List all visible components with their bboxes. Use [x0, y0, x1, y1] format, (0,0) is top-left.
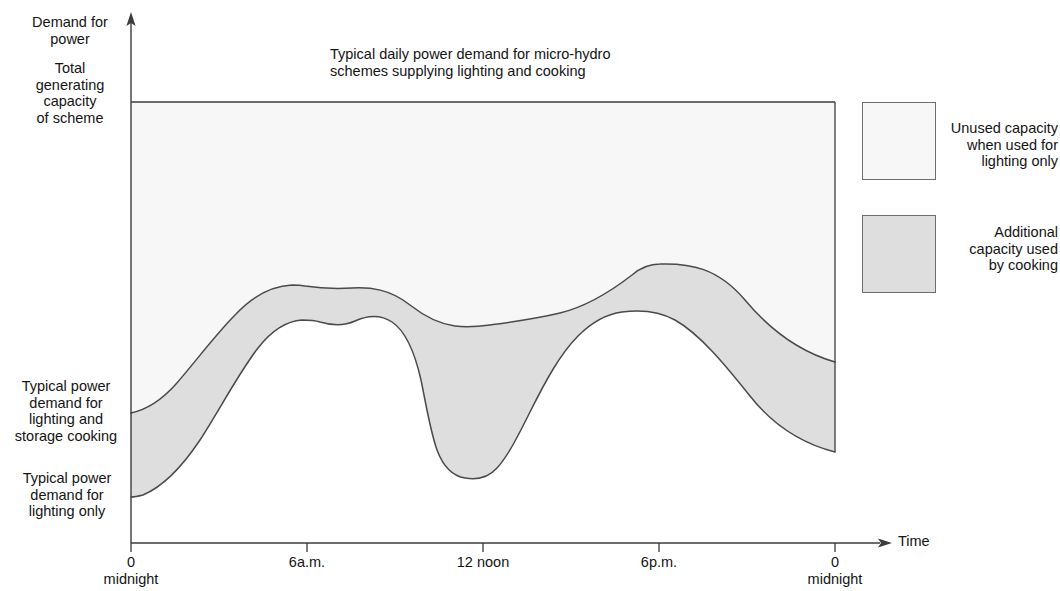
x-axis-ticks — [131, 543, 835, 552]
x-axis-arrowhead — [878, 538, 892, 547]
lighting-only-label: Typical power demand for lighting only — [6, 470, 128, 520]
x-axis-title: Time — [898, 533, 930, 550]
total-capacity-label: Total generating capacity of scheme — [12, 60, 128, 126]
y-axis-title: Demand for power — [12, 14, 128, 47]
x-tick-label-6am: 6a.m. — [242, 554, 372, 571]
x-tick-label-12noon: 12 noon — [418, 554, 548, 571]
lighting-and-storage-cooking-label: Typical power demand for lighting and st… — [4, 378, 128, 444]
x-tick-label-6pm: 6p.m. — [594, 554, 724, 571]
legend-swatch-cooking-capacity — [862, 215, 936, 293]
chart-title: Typical daily power demand for micro-hyd… — [330, 46, 730, 80]
x-tick-label-midnight-end: 0 midnight — [770, 554, 900, 587]
legend-label-cooking-capacity: Additional capacity used by cooking — [940, 224, 1058, 274]
legend-swatch-unused-capacity — [862, 102, 936, 180]
x-tick-label-midnight-start: 0 midnight — [66, 554, 196, 587]
chart-canvas — [0, 0, 1060, 591]
legend-label-unused-capacity: Unused capacity when used for lighting o… — [940, 120, 1058, 170]
chart-figure: Demand for power Total generating capaci… — [0, 0, 1060, 591]
